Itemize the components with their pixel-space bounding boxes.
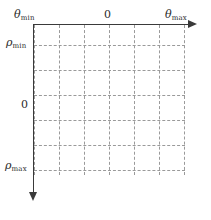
parameter-grid [34,25,185,175]
gridline-vertical [59,25,60,175]
theta-max-subscript: max [172,14,187,22]
gridline-horizontal [34,145,185,146]
gridline-vertical [134,25,135,175]
gridline-horizontal [34,95,185,96]
gridline-horizontal [34,170,185,171]
gridline-horizontal [34,70,185,71]
gridline-vertical [84,25,85,175]
theta-max-label: θmax [165,9,187,22]
theta-max-symbol: θ [165,8,172,21]
rho-zero-label: 0 [21,99,28,110]
parameter-space-figure: θmin 0 θmax ρmin 0 ρmax [0,0,211,220]
down-arrow-icon [29,192,37,201]
rho-max-label: ρmax [5,160,27,173]
rho-min-label: ρmin [6,37,26,50]
gridline-vertical [159,25,160,175]
gridline-vertical [34,25,35,175]
theta-zero-label: 0 [104,9,111,20]
theta-min-label: θmin [14,9,35,22]
rho-max-subscript: max [11,165,26,173]
gridline-horizontal [34,45,185,46]
gridline-horizontal [34,120,185,121]
gridline-vertical [184,25,185,175]
right-arrow-icon [188,20,197,28]
rho-min-subscript: min [12,42,26,50]
theta-min-symbol: θ [14,8,21,21]
theta-min-subscript: min [21,14,35,22]
gridline-vertical [109,25,110,175]
